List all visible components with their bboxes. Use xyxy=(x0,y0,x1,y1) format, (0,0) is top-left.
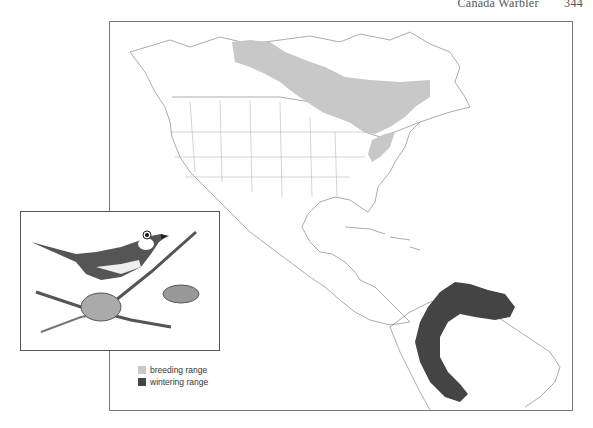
legend-label: breeding range xyxy=(150,365,207,375)
running-head: Canada Warbler 344 xyxy=(457,0,583,11)
legend-item-wintering: wintering range xyxy=(138,376,208,388)
map-legend: breeding range wintering range xyxy=(138,364,208,388)
warbler-drawing xyxy=(21,212,219,350)
wintering-swatch xyxy=(138,378,146,386)
running-head-title: Canada Warbler xyxy=(457,0,538,10)
legend-item-breeding: breeding range xyxy=(138,364,208,376)
breeding-swatch xyxy=(138,366,146,374)
bird-illustration xyxy=(20,211,220,351)
legend-label: wintering range xyxy=(150,377,208,387)
page-number: 344 xyxy=(564,0,583,10)
breeding-range-area xyxy=(232,40,430,162)
wintering-range-area xyxy=(415,282,515,402)
